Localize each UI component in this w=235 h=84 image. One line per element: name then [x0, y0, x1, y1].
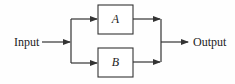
- input-label: Input: [14, 35, 40, 49]
- parallel-block-diagram: Input A B Output: [0, 0, 235, 84]
- block-b-label: B: [112, 55, 120, 69]
- diagram-svg: Input A B Output: [0, 0, 235, 84]
- block-b: B: [98, 48, 133, 77]
- output-label: Output: [193, 35, 227, 49]
- block-a: A: [98, 5, 133, 34]
- block-a-label: A: [111, 12, 120, 26]
